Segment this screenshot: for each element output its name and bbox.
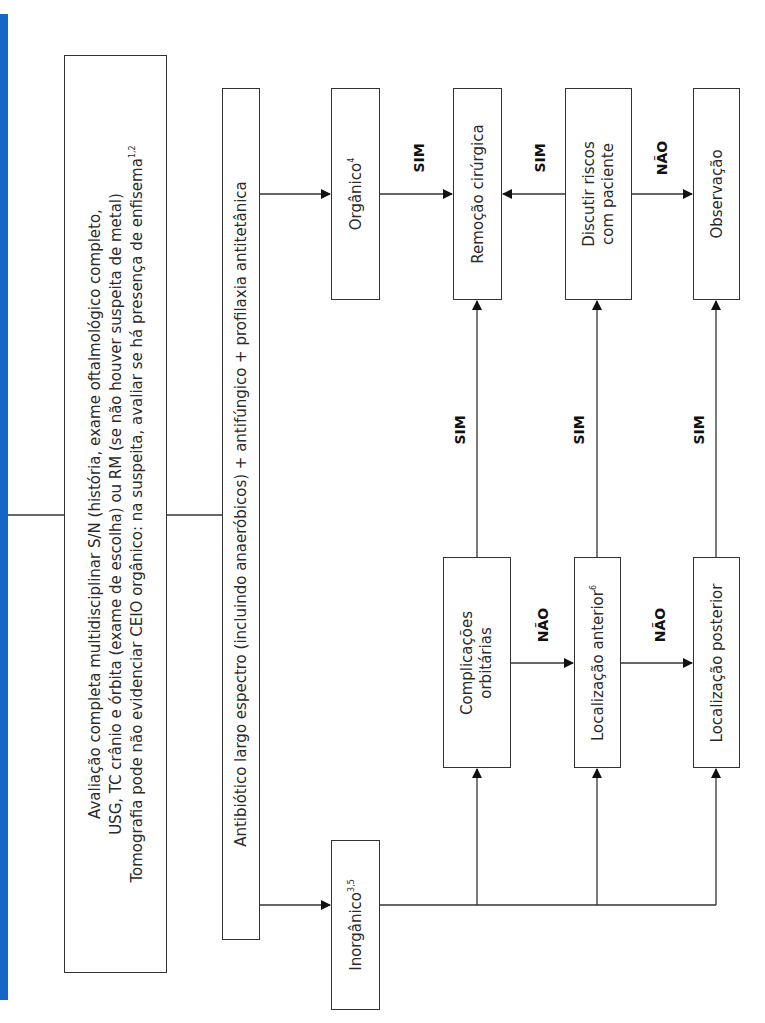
footnote-ref: 1,2 bbox=[127, 145, 136, 158]
edge-label-yes: SIM bbox=[411, 143, 427, 172]
discuss-risks-line-2: com paciente bbox=[599, 141, 618, 247]
observation-label: Observação bbox=[707, 149, 726, 238]
inorganic-label: Inorgânico bbox=[346, 892, 364, 971]
orbital-complications-box: Complicações orbitárias bbox=[443, 557, 511, 768]
antibiotic-box: Antibiótico largo espectro (incluindo an… bbox=[222, 88, 260, 940]
footnote-ref: 6 bbox=[588, 584, 597, 589]
discuss-risks-line-1: Discutir riscos bbox=[580, 141, 599, 247]
edge-label-yes: SIM bbox=[571, 415, 587, 444]
edge-label-yes: SIM bbox=[691, 415, 707, 444]
discuss-risks-box: Discutir riscos com paciente bbox=[565, 88, 632, 300]
assessment-line-2: USG, TC crânio e órbita (exame de escolh… bbox=[105, 145, 126, 882]
edge-label-yes: SIM bbox=[532, 143, 548, 172]
organic-box: Orgânico4 bbox=[331, 88, 380, 300]
anterior-location-label: Localização anterior bbox=[588, 590, 606, 741]
inorganic-box: Inorgânico3,5 bbox=[331, 840, 380, 1010]
edge-label-no: NÃO bbox=[654, 141, 670, 175]
assessment-box: Avaliação completa multidisciplinar S/N … bbox=[64, 55, 167, 973]
antibiotic-text: Antibiótico largo espectro (incluindo an… bbox=[232, 181, 251, 847]
posterior-location-box: Localização posterior bbox=[693, 557, 740, 768]
assessment-line-3: Tomografia pode não evidenciar CEIO orgâ… bbox=[127, 158, 145, 883]
observation-box: Observação bbox=[693, 88, 740, 300]
surgical-removal-box: Remoção cirúrgica bbox=[453, 88, 502, 300]
orbital-complications-line-2: orbitárias bbox=[477, 610, 496, 714]
posterior-location-label: Localização posterior bbox=[707, 583, 726, 742]
assessment-line-1: Avaliação completa multidisciplinar S/N … bbox=[84, 145, 105, 882]
anterior-location-box: Localização anterior6 bbox=[574, 557, 621, 768]
organic-label: Orgânico bbox=[346, 163, 364, 231]
orbital-complications-line-1: Complicações bbox=[458, 610, 477, 714]
footnote-ref: 3,5 bbox=[346, 879, 355, 892]
edge-label-no: NÃO bbox=[535, 608, 551, 642]
footnote-ref: 4 bbox=[346, 158, 355, 163]
edge-label-no: NÃO bbox=[652, 608, 668, 642]
surgical-removal-label: Remoção cirúrgica bbox=[468, 124, 487, 263]
edge-label-yes: SIM bbox=[452, 415, 468, 444]
